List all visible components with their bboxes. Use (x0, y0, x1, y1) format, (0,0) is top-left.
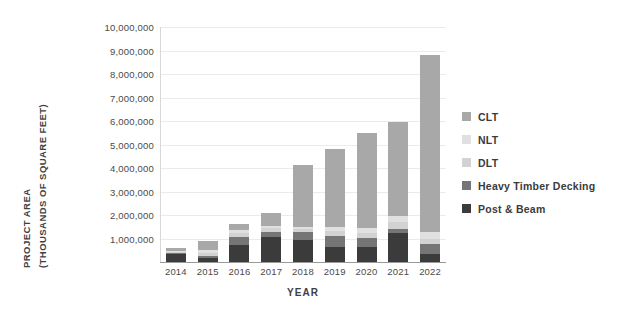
x-axis-tick-label: 2020 (356, 266, 378, 277)
bar-segment (388, 222, 408, 229)
x-axis-tick-labels: 201420152016201720182019202020212022 (160, 266, 446, 282)
bar-segment (357, 238, 377, 248)
bar-column (420, 55, 440, 262)
bar-segment (420, 232, 440, 239)
y-axis-tick-label: 7,000,000 (110, 92, 154, 103)
bar-segment (325, 247, 345, 262)
bar-column (357, 133, 377, 262)
x-axis-tick-label: 2022 (419, 266, 441, 277)
bar-column (261, 213, 281, 262)
y-axis-tick-label: 3,000,000 (110, 186, 154, 197)
bar-segment (293, 165, 313, 227)
bar-segment (261, 237, 281, 262)
y-axis-tick-label: 2,000,000 (110, 210, 154, 221)
x-axis-tick-label: 2014 (165, 266, 187, 277)
bar-series-group (160, 27, 446, 262)
bar-column (166, 248, 186, 262)
bar-segment (420, 254, 440, 262)
x-axis-tick-label: 2019 (324, 266, 346, 277)
bar-segment (388, 233, 408, 262)
bar-column (325, 149, 345, 262)
bar-segment (388, 122, 408, 216)
legend-item[interactable]: Post & Beam (462, 197, 622, 220)
bar-segment (325, 149, 345, 227)
y-axis-title-line-2: (THOUSANDS OF SQUARE FEET) (37, 104, 48, 268)
legend-item-label: Post & Beam (478, 203, 546, 215)
x-axis-tick-label: 2017 (260, 266, 282, 277)
bar-segment (198, 241, 218, 250)
chart-legend: CLTNLTDLTHeavy Timber DeckingPost & Beam (462, 105, 622, 220)
bar-segment (293, 240, 313, 262)
legend-item-label: DLT (478, 157, 498, 169)
x-axis-tick-label: 2021 (387, 266, 409, 277)
y-axis-tick-label: 6,000,000 (110, 116, 154, 127)
bar-segment (261, 213, 281, 226)
bar-segment (357, 247, 377, 262)
legend-item[interactable]: CLT (462, 105, 622, 128)
y-axis-tick-labels: 1,000,0002,000,0003,000,0004,000,0005,00… (62, 27, 154, 262)
legend-swatch-icon (462, 158, 471, 167)
x-axis-title: YEAR (160, 287, 446, 298)
bar-segment (420, 244, 440, 254)
bar-segment (293, 232, 313, 240)
bar-segment (229, 245, 249, 262)
chart-figure: PROJECT AREA (THOUSANDS OF SQUARE FEET) … (0, 0, 624, 320)
bar-segment (357, 133, 377, 228)
x-axis-tick-label: 2016 (228, 266, 250, 277)
legend-swatch-icon (462, 181, 471, 190)
legend-item-label: CLT (478, 111, 498, 123)
bar-segment (166, 254, 186, 262)
y-axis-tick-label: 8,000,000 (110, 69, 154, 80)
y-axis-tick-label: 5,000,000 (110, 139, 154, 150)
bar-column (388, 122, 408, 262)
bar-column (229, 224, 249, 262)
bar-segment (229, 237, 249, 245)
x-axis-tick-label: 2018 (292, 266, 314, 277)
legend-item-label: Heavy Timber Decking (478, 180, 595, 192)
bar-column (198, 241, 218, 262)
legend-item-label: NLT (478, 134, 498, 146)
bar-segment (325, 236, 345, 248)
legend-item[interactable]: Heavy Timber Decking (462, 174, 622, 197)
x-axis-tick-label: 2015 (197, 266, 219, 277)
legend-swatch-icon (462, 112, 471, 121)
legend-swatch-icon (462, 135, 471, 144)
y-axis-tick-label: 1,000,000 (110, 233, 154, 244)
bar-column (293, 165, 313, 262)
legend-item[interactable]: NLT (462, 128, 622, 151)
x-axis-line (160, 262, 446, 263)
legend-item[interactable]: DLT (462, 151, 622, 174)
y-axis-tick-label: 4,000,000 (110, 163, 154, 174)
legend-swatch-icon (462, 204, 471, 213)
y-axis-tick-label: 9,000,000 (110, 45, 154, 56)
y-axis-title-line-1: PROJECT AREA (21, 189, 32, 268)
plot-area (160, 27, 446, 262)
y-axis-tick-label: 10,000,000 (104, 22, 154, 33)
bar-segment (198, 258, 218, 262)
bar-segment (420, 55, 440, 232)
